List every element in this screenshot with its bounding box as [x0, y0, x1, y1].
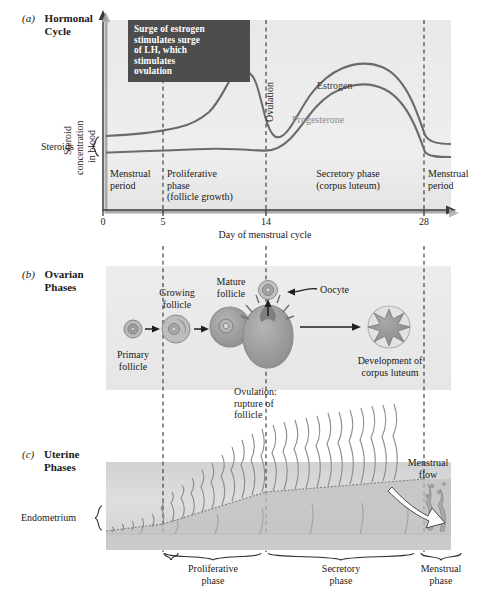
callout-line-1: Surge of estrogen	[134, 24, 205, 34]
phase-4-line2: period	[428, 180, 454, 191]
oocyte-icon	[259, 281, 278, 300]
menstrual-flow-line2: flow	[419, 469, 437, 480]
panel-c-title-line2: Phases	[44, 461, 76, 473]
ovulation-label: Ovulation	[264, 82, 276, 122]
y-axis-label-2: concentration	[74, 121, 86, 175]
brace-menstrual	[421, 553, 461, 560]
ovulation-rupture-line3: follicle	[234, 409, 262, 420]
corpus-luteum-line1: Development of	[358, 355, 423, 366]
callout-line-3: of LH, which	[134, 45, 187, 55]
panel-c-title: (c) Uterine Phases	[22, 448, 79, 473]
menstrual-flow-label: Menstrual flow	[396, 457, 460, 480]
progesterone-curve-label: Progesterone	[292, 114, 344, 126]
phase-label-proliferative: Proliferative phase (follicle growth)	[167, 168, 263, 203]
uterine-phase-proliferative: Proliferative phase	[175, 563, 251, 586]
corpus-luteum-line2: corpus luteum	[362, 367, 419, 378]
phase-label-secretory: Secretory phase (corpus luteum)	[280, 168, 416, 191]
phase-2-line3: (follicle growth)	[167, 191, 233, 202]
uterine-phase-3-line1: Menstrual	[421, 563, 462, 574]
y-axis-label-3: in blood	[86, 130, 98, 163]
primary-follicle-label: Primary follicle	[104, 349, 162, 372]
uterine-phase-1-line1: Proliferative	[188, 563, 238, 574]
primary-follicle-line2: follicle	[119, 361, 147, 372]
phase-2-line2: phase	[167, 180, 190, 191]
mature-follicle-line2: follicle	[217, 288, 245, 299]
primary-follicle-icon	[124, 320, 142, 338]
growing-follicle-line1: Growing	[159, 287, 195, 298]
panel-b-title-line2: Phases	[45, 281, 77, 293]
menstrual-cycle-figure: (a) Hormonal Cycle	[0, 0, 479, 608]
uterine-phase-menstrual: Menstrual phase	[410, 563, 472, 586]
brace-proliferative	[165, 553, 261, 560]
phase-2-line1: Proliferative	[167, 168, 217, 179]
ovulation-rupture-label: Ovulation: rupture of follicle	[234, 386, 304, 421]
xtick-28: 28	[414, 216, 434, 227]
xtick-14: 14	[256, 216, 276, 227]
callout-line-2: stimulates surge	[134, 35, 200, 45]
menstrual-flow-line1: Menstrual	[408, 457, 449, 468]
mature-follicle-label: Mature follicle	[203, 276, 259, 299]
oocyte-label: Oocyte	[320, 284, 349, 296]
ovulation-rupture-line2: rupture of	[234, 398, 274, 409]
phase-label-menstrual-2: Menstrual period	[428, 168, 479, 191]
growing-follicle-label: Growing follicle	[146, 287, 208, 310]
growing-follicle-icon	[162, 315, 190, 343]
ovulation-rupture-line1: Ovulation:	[234, 386, 277, 397]
phase-4-line1: Menstrual	[428, 168, 469, 179]
xtick-0: 0	[93, 216, 113, 227]
steroids-label: Steroids	[41, 141, 74, 153]
mature-follicle-line1: Mature	[217, 276, 246, 287]
panel-c-art	[95, 404, 461, 560]
phase-label-menstrual-1: Menstrual period	[110, 168, 162, 191]
uterine-phase-secretory: Secretory phase	[311, 563, 371, 586]
primary-follicle-line1: Primary	[117, 349, 149, 360]
panel-b-label: (b)	[22, 268, 35, 280]
phase-1-line2: period	[110, 180, 136, 191]
endometrium-label: Endometrium	[21, 512, 76, 524]
uterine-phase-1-line2: phase	[202, 575, 225, 586]
panel-c-label: (c)	[22, 448, 34, 460]
corpus-luteum-label: Development of corpus luteum	[337, 355, 443, 378]
phase-3-line2: (corpus luteum)	[316, 180, 380, 191]
phase-1-line1: Menstrual	[110, 168, 151, 179]
estrogen-curve-label: Estrogen	[317, 80, 353, 92]
panel-b-title-line1: Ovarian	[45, 268, 84, 280]
uterine-phase-2-line1: Secretory	[322, 563, 360, 574]
uterine-phase-3-line2: phase	[430, 575, 453, 586]
xtick-5: 5	[153, 216, 173, 227]
panel-b-title: (b) Ovarian Phases	[22, 268, 84, 293]
uterine-phase-2-line2: phase	[330, 575, 353, 586]
corpus-luteum-icon	[368, 306, 410, 348]
y-axis-line3: in blood	[86, 130, 97, 163]
brace-secretory	[268, 553, 414, 560]
estrogen-surge-callout: Surge of estrogen stimulates surge of LH…	[128, 20, 250, 82]
phase-3-line1: Secretory phase	[316, 168, 380, 179]
endometrium-brace	[95, 506, 102, 530]
growing-follicle-line2: follicle	[163, 299, 191, 310]
y-axis-line2: concentration	[74, 121, 85, 175]
callout-line-4: stimulates	[134, 56, 175, 66]
x-axis-label: Day of menstrual cycle	[170, 229, 360, 240]
callout-line-5: ovulation	[134, 66, 172, 76]
panel-c-title-line1: Uterine	[44, 448, 79, 460]
